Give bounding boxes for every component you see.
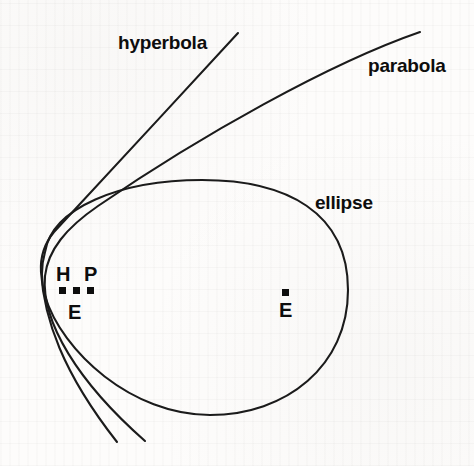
hyperbola-label: hyperbola (118, 33, 207, 52)
hyperbola-curve (41, 33, 238, 442)
hyperbola-focus-dot (59, 287, 66, 294)
ellipse-curve (42, 180, 348, 415)
ellipse-far-focus-dot (282, 289, 289, 296)
ellipse-focus-dot (87, 287, 94, 294)
ellipse-label: ellipse (315, 193, 373, 212)
parabola-focus-letter: P (84, 264, 97, 284)
ellipse-far-focus-letter: E (279, 300, 292, 320)
parabola-focus-dot (73, 287, 80, 294)
parabola-label: parabola (368, 56, 446, 75)
hyperbola-focus-letter: H (56, 264, 70, 284)
conic-sections-figure: hyperbola parabola ellipse H P E E (0, 0, 474, 466)
parabola-curve (45, 32, 420, 441)
ellipse-focus-letter: E (68, 302, 81, 322)
